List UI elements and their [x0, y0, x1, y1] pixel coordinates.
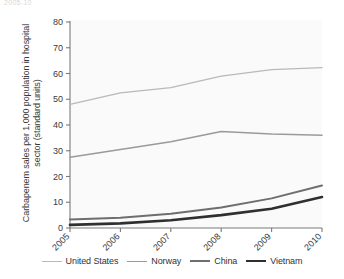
y-tick-label: 20	[53, 172, 63, 182]
chart-legend: United StatesNorwayChinaVietnam	[0, 256, 344, 266]
y-tick-label: 30	[53, 146, 63, 156]
y-tick-label: 60	[53, 69, 63, 79]
legend-item[interactable]: United States	[42, 256, 119, 266]
legend-item[interactable]: Norway	[127, 256, 181, 266]
y-tick-label: 70	[53, 43, 63, 53]
x-tick-label: 2010	[302, 231, 323, 252]
x-tick-label: 2005	[50, 231, 71, 252]
y-tick-label: 40	[53, 120, 63, 130]
legend-swatch-icon	[190, 260, 210, 262]
legend-item[interactable]: Vietnam	[246, 256, 302, 266]
plot-area: 01020304050607080 2005200620072008200920…	[0, 0, 344, 279]
legend-item[interactable]: China	[190, 256, 237, 266]
legend-label: China	[214, 256, 237, 266]
chart-figure: 2005-10 Carbapenem sales per 1,000 popul…	[0, 0, 344, 279]
x-tick-label: 2006	[101, 231, 122, 252]
x-tick-label: 2007	[151, 231, 172, 252]
x-tick-label: 2008	[201, 231, 222, 252]
y-tick-label: 50	[53, 94, 63, 104]
y-axis-ticks	[66, 22, 70, 228]
y-tick-label: 80	[53, 17, 63, 27]
legend-swatch-icon	[42, 261, 62, 262]
legend-label: United States	[66, 256, 119, 266]
legend-swatch-icon	[246, 260, 266, 262]
plot-background	[70, 20, 322, 228]
x-tick-label: 2009	[252, 231, 273, 252]
x-axis-tick-labels: 200520062007200820092010	[50, 231, 323, 252]
legend-label: Norway	[151, 256, 181, 266]
legend-swatch-icon	[127, 261, 147, 262]
y-tick-label: 10	[53, 197, 63, 207]
y-axis-tick-labels: 01020304050607080	[53, 17, 63, 233]
legend-label: Vietnam	[270, 256, 302, 266]
x-axis-ticks	[70, 228, 322, 232]
y-tick-label: 0	[58, 223, 63, 233]
